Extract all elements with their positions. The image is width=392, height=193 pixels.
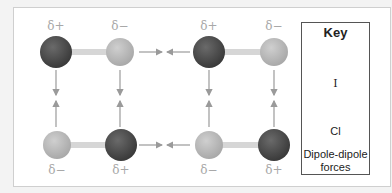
horizontal-force-arrows — [139, 52, 190, 145]
partial-charge-label: δ− — [200, 163, 217, 177]
bonds — [56, 49, 274, 148]
partial-charge-label: δ+ — [112, 163, 129, 177]
partial-charge-label: δ+ — [200, 19, 217, 33]
key-title: Key — [302, 25, 369, 40]
chlorine-atom — [43, 131, 71, 159]
partial-charge-label: δ− — [265, 19, 282, 33]
chlorine-atom — [106, 38, 134, 66]
key-iodine-label: I — [302, 78, 369, 90]
iodine-atom — [258, 129, 290, 161]
key-force-label-line2: forces — [302, 161, 369, 173]
partial-charge-label: δ+ — [47, 19, 64, 33]
partial-charge-label: δ− — [48, 163, 65, 177]
chlorine-atom — [260, 38, 288, 66]
key-force-label-line1: Dipole-dipole — [302, 148, 369, 160]
iodine-atom — [193, 36, 225, 68]
vertical-force-arrows — [56, 70, 274, 127]
partial-charge-label: δ+ — [265, 163, 282, 177]
key-chlorine-label: Cl — [302, 125, 369, 137]
iodine-atom — [105, 129, 137, 161]
chlorine-atom — [195, 131, 223, 159]
partial-charge-label: δ− — [111, 19, 128, 33]
iodine-atom — [40, 36, 72, 68]
legend-key: Key I Cl Dipole-dipole forces — [301, 22, 370, 175]
